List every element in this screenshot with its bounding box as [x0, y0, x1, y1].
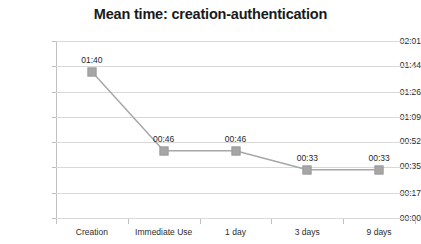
gridline: [56, 218, 415, 219]
x-axis-tick-label: 1 day: [200, 227, 272, 237]
x-axis-tick-label: Immediate Use: [128, 227, 200, 237]
x-axis-tick-mark: [343, 219, 344, 224]
data-point-marker[interactable]: [303, 165, 312, 174]
data-point-label: 00:33: [368, 153, 389, 163]
x-axis-tick-label: 9 days: [343, 227, 415, 237]
plot-area: 01:4000:4600:4600:3300:33: [56, 41, 415, 218]
x-axis-tick-mark: [56, 219, 57, 224]
data-point-marker[interactable]: [159, 146, 168, 155]
series-line: [56, 41, 415, 218]
data-point-label: 00:46: [225, 134, 246, 144]
data-point-marker[interactable]: [231, 146, 240, 155]
data-point-label: 00:33: [297, 153, 318, 163]
chart-container: Mean time: creation-authentication 02:01…: [0, 0, 421, 244]
data-point-label: 00:46: [153, 134, 174, 144]
x-axis-tick-label: Creation: [56, 227, 128, 237]
data-point-marker[interactable]: [375, 165, 384, 174]
data-point-label: 01:40: [81, 55, 102, 65]
chart-title: Mean time: creation-authentication: [0, 6, 421, 22]
x-axis-tick-mark: [128, 219, 129, 224]
data-point-marker[interactable]: [87, 67, 96, 76]
x-axis-tick-mark: [200, 219, 201, 224]
x-axis-tick-mark: [415, 219, 416, 224]
x-axis-tick-mark: [271, 219, 272, 224]
x-axis-tick-label: 3 days: [271, 227, 343, 237]
